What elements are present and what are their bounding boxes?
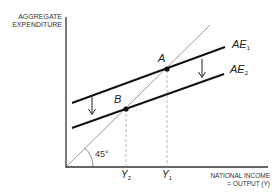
- y1-tick-label: Y1: [162, 171, 172, 182]
- down-arrow-icon: [89, 97, 96, 115]
- down-arrow-icon: [199, 59, 206, 78]
- point-a-label: A: [158, 54, 165, 62]
- angle-arc: [85, 148, 93, 167]
- forty-five-degree-line: [66, 25, 210, 167]
- y2-tick-label: Y2: [121, 171, 131, 182]
- y-axis-label-line1: AGGREGATE: [8, 13, 62, 21]
- point-b-marker: [123, 106, 128, 111]
- x-axis-label: NATIONAL INCOME = OUTPUT (Y): [196, 172, 270, 188]
- angle-label: 45°: [95, 150, 109, 158]
- point-a-marker: [164, 66, 169, 71]
- x-axis-label-line2: = OUTPUT (Y): [196, 180, 270, 188]
- ae1-label: AE1: [232, 40, 250, 52]
- y-axis-label-line2: EXPENDITURE: [8, 21, 62, 29]
- point-b-label: B: [114, 95, 121, 103]
- x-axis-label-line1: NATIONAL INCOME: [196, 172, 270, 180]
- ae2-label: AE2: [230, 65, 248, 77]
- y-axis-label: AGGREGATE EXPENDITURE: [8, 13, 62, 29]
- ae2-line: [72, 74, 224, 128]
